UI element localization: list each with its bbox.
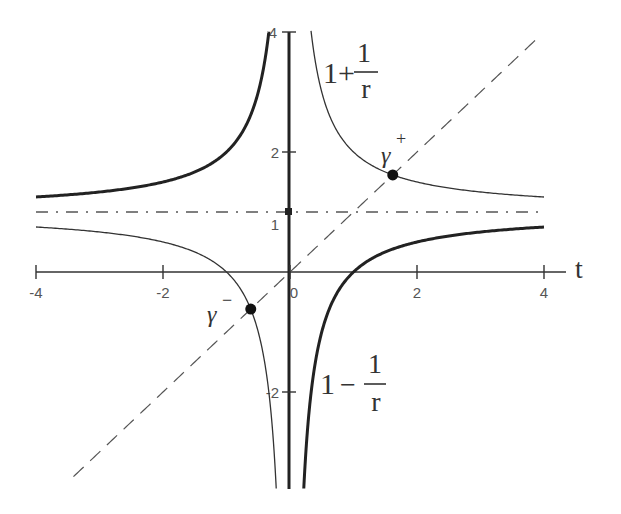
label-plus-denominator: r [361,73,371,104]
y-intercept-marker [285,208,292,215]
x-tick-label: 2 [413,284,421,301]
label-minus-operator: − [340,369,356,400]
x-tick-label: -2 [156,284,169,301]
curve-y-t [73,38,537,477]
y-tick-label: 1 [271,216,279,233]
curve-1-1-r [36,227,276,489]
label-1-minus-1-over-r: 1 − 1 r [320,348,386,417]
x-axis-label: t [575,253,583,284]
x-tick-label: 0 [290,284,298,301]
label-gamma-minus: γ − [207,290,232,327]
hyperbola-diagram: -4-2024 421-2 t 1+ 1 r 1 − 1 r γ + γ − [0,0,621,514]
gamma-minus-point [245,304,256,315]
gamma-minus-symbol: γ [207,301,217,327]
label-gamma-plus: γ + [381,129,406,168]
x-tick-label: -4 [29,284,42,301]
gamma-minus-superscript: − [222,290,232,310]
x-tick-label: 4 [540,284,548,301]
label-plus-lead: 1+ [323,56,355,89]
gamma-plus-superscript: + [396,129,406,149]
label-minus-denominator: r [371,386,381,417]
curve-1-1-r [304,227,544,489]
label-minus-lead: 1 [320,367,335,400]
gamma-plus-symbol: γ [381,142,391,168]
gamma-plus-point [387,169,398,180]
y-tick-label: 2 [271,144,279,161]
label-minus-numerator: 1 [368,348,382,379]
curve-1-1-r [36,32,269,197]
label-1-plus-1-over-r: 1+ 1 r [323,37,378,104]
label-plus-numerator: 1 [357,37,371,68]
